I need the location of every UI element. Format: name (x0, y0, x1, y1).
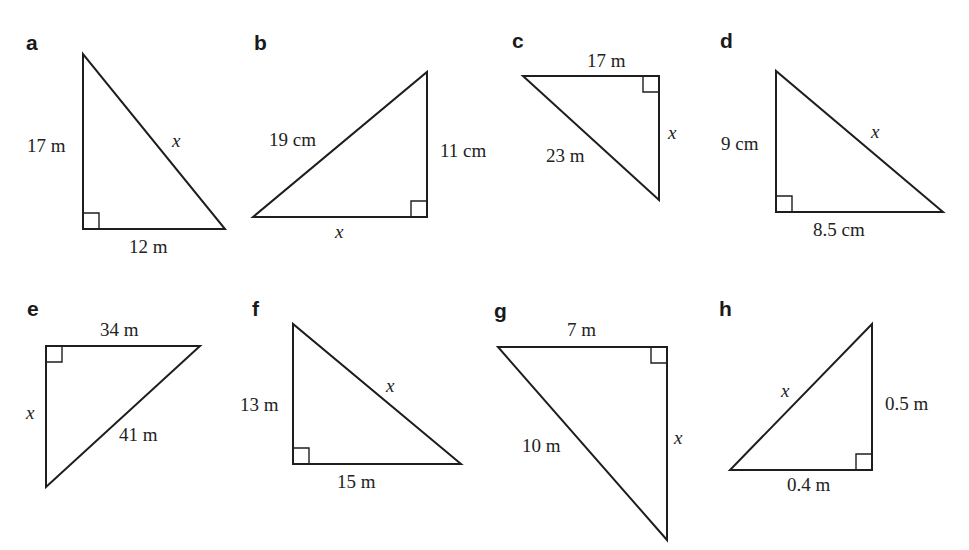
right-triangle (293, 324, 461, 464)
right-angle-marker-icon (643, 76, 659, 92)
problem-letter: f (252, 297, 260, 320)
side-label: 12 m (129, 236, 168, 257)
problem-d: d 9 cm x 8.5 cm (720, 29, 943, 240)
problem-e: e 34 m x 41 m (25, 297, 200, 487)
unknown-side-label: x (334, 221, 344, 242)
side-label: 15 m (337, 471, 376, 492)
problem-letter: d (720, 29, 733, 52)
right-triangle (523, 76, 659, 200)
side-label: 41 m (119, 424, 158, 445)
problem-letter: h (719, 297, 732, 320)
side-label: 9 cm (721, 133, 759, 154)
problem-letter: c (512, 29, 524, 52)
right-angle-marker-icon (83, 213, 99, 229)
unknown-side-label: x (780, 380, 790, 401)
side-label: 8.5 cm (813, 219, 865, 240)
unknown-side-label: x (171, 130, 181, 151)
side-label: 0.5 m (885, 393, 929, 414)
right-triangle (730, 324, 872, 470)
side-label: 17 m (27, 135, 66, 156)
right-triangle (83, 54, 225, 229)
unknown-side-label: x (385, 375, 395, 396)
right-angle-marker-icon (293, 448, 309, 464)
side-label: 23 m (546, 145, 585, 166)
right-triangle (776, 71, 943, 212)
problem-h: h x 0.5 m 0.4 m (719, 297, 929, 495)
right-angle-marker-icon (776, 196, 792, 212)
side-label: 0.4 m (787, 474, 831, 495)
side-label: 10 m (522, 435, 561, 456)
side-label: 34 m (100, 319, 139, 340)
problem-c: c 17 m x 23 m (512, 29, 677, 200)
unknown-side-label: x (870, 121, 880, 142)
problem-letter: e (27, 297, 39, 320)
side-label: 11 cm (440, 140, 486, 161)
right-angle-marker-icon (411, 201, 427, 217)
triangle-exercise-figure: a 17 m x 12 m b 19 cm 11 cm x c 17 m x 2… (0, 0, 969, 550)
right-angle-marker-icon (856, 454, 872, 470)
problem-f: f 13 m x 15 m (240, 297, 461, 492)
side-label: 19 cm (269, 129, 316, 150)
side-label: 13 m (240, 394, 279, 415)
problem-letter: g (494, 299, 507, 322)
unknown-side-label: x (667, 122, 677, 143)
problem-g: g 7 m x 10 m (494, 299, 683, 540)
unknown-side-label: x (673, 427, 683, 448)
problem-letter: a (26, 31, 38, 54)
problem-letter: b (254, 31, 267, 54)
right-angle-marker-icon (651, 347, 667, 363)
right-angle-marker-icon (46, 346, 62, 362)
problem-a: a 17 m x 12 m (26, 31, 225, 257)
side-label: 17 m (587, 50, 626, 71)
problem-b: b 19 cm 11 cm x (253, 31, 486, 242)
side-label: 7 m (567, 319, 596, 340)
right-triangle (46, 346, 200, 487)
unknown-side-label: x (25, 402, 35, 423)
